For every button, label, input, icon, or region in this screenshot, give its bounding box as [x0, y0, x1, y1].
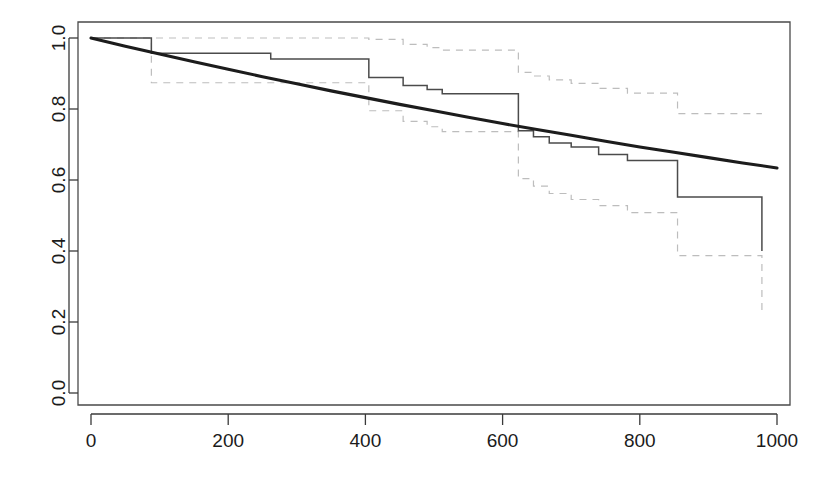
x-tick-label: 0: [86, 430, 97, 451]
survival-plot-figure: 0.00.20.40.60.81.0 02004006008001000: [0, 0, 819, 479]
x-tick-label: 600: [487, 430, 519, 451]
x-tick-label: 400: [350, 430, 382, 451]
x-tick-label: 800: [624, 430, 656, 451]
y-tick-label: 0.8: [48, 96, 69, 122]
y-tick-label: 0.2: [48, 309, 69, 335]
y-tick-label: 0.0: [48, 380, 69, 406]
chart-canvas: 0.00.20.40.60.81.0 02004006008001000: [0, 0, 819, 479]
y-tick-label: 0.4: [48, 237, 69, 264]
y-tick-label: 0.6: [48, 167, 69, 193]
y-tick-label: 1.0: [48, 25, 69, 51]
x-tick-label: 200: [212, 430, 244, 451]
chart-background: [0, 0, 819, 479]
x-tick-label: 1000: [756, 430, 798, 451]
